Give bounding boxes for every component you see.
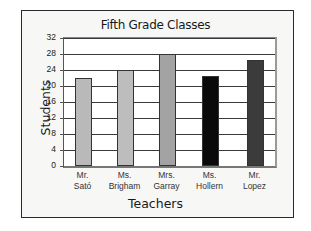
y-tick-label: 28: [36, 48, 56, 58]
x-tick-label: Ms.Hollern: [185, 170, 235, 192]
y-tick-label: 12: [36, 112, 56, 122]
bar-ms-brigham: [117, 70, 134, 166]
x-tick-label: Mr.Lopez: [230, 170, 280, 192]
bar-ms-hollern: [202, 76, 219, 166]
y-tick-mark: [60, 150, 64, 151]
bar-mr-lopez: [247, 60, 264, 166]
gridline: [64, 38, 275, 39]
y-tick-label: 4: [36, 144, 56, 154]
y-tick-mark: [60, 38, 64, 39]
x-tick-label-line1: Ms.: [185, 170, 235, 181]
bar-mr-sat: [75, 78, 92, 166]
y-tick-label: 24: [36, 64, 56, 74]
y-tick-mark: [60, 118, 64, 119]
y-tick-label: 0: [36, 160, 56, 170]
bar-mrs-garray: [159, 54, 176, 166]
y-tick-label: 20: [36, 80, 56, 90]
y-tick-mark: [60, 166, 64, 167]
x-axis-title: Teachers: [0, 196, 311, 211]
y-tick-mark: [60, 54, 64, 55]
y-tick-label: 8: [36, 128, 56, 138]
y-tick-mark: [60, 70, 64, 71]
y-tick-mark: [60, 86, 64, 87]
y-tick-mark: [60, 102, 64, 103]
plot-area: [63, 37, 277, 168]
y-tick-label: 32: [36, 32, 56, 42]
x-tick-label-line2: Lopez: [230, 181, 280, 192]
x-tick-label-line2: Hollern: [185, 181, 235, 192]
x-tick-label-line1: Mr.: [230, 170, 280, 181]
y-tick-label: 16: [36, 96, 56, 106]
y-tick-mark: [60, 134, 64, 135]
chart-title: Fifth Grade Classes: [0, 18, 311, 32]
